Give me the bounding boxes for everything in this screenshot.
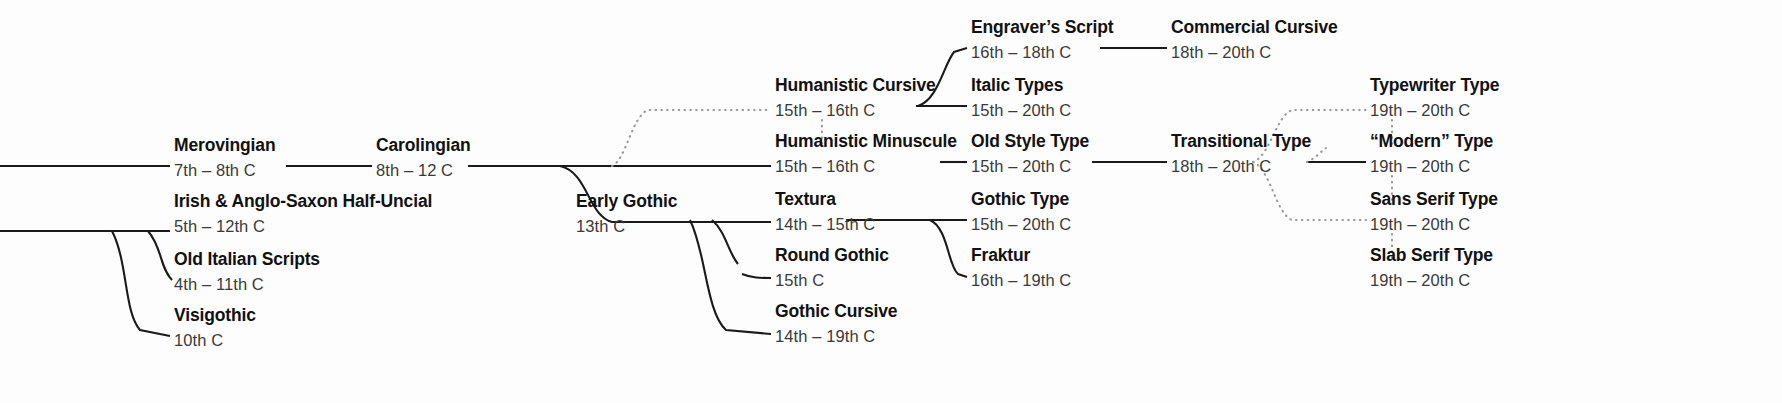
node-label: Humanistic Cursive — [775, 77, 936, 95]
node-date: 16th – 18th C — [971, 44, 1113, 61]
node-label: Typewriter Type — [1370, 77, 1499, 95]
node-label: Italic Types — [971, 77, 1071, 95]
node-label: Humanistic Minuscule — [775, 133, 957, 151]
node-label: Visigothic — [174, 307, 256, 325]
node-italic-types[interactable]: Italic Types 15th – 20th C — [971, 77, 1071, 118]
node-date: 14th – 19th C — [775, 328, 897, 345]
node-textura[interactable]: Textura 14th – 15th C — [775, 191, 875, 232]
edge-earlygothic-roundgothic — [712, 220, 738, 264]
node-gothic-type[interactable]: Gothic Type 15th – 20th C — [971, 191, 1071, 232]
edge-root-visigothic — [112, 231, 170, 336]
node-date: 10th C — [174, 332, 256, 349]
node-humanistic-cursive[interactable]: Humanistic Cursive 15th – 16th C — [775, 77, 936, 118]
node-label: Round Gothic — [775, 247, 889, 265]
node-label: Irish & Anglo-Saxon Half-Uncial — [174, 193, 432, 211]
node-modern-type[interactable]: “Modern” Type 19th – 20th C — [1370, 133, 1493, 174]
node-label: Gothic Cursive — [775, 303, 897, 321]
node-label: Gothic Type — [971, 191, 1071, 209]
script-family-tree-diagram: Merovingian 7th – 8th C Carolingian 8th … — [0, 0, 1782, 403]
node-date: 19th – 20th C — [1370, 216, 1498, 233]
node-label: Sans Serif Type — [1370, 191, 1498, 209]
node-humanistic-minuscule[interactable]: Humanistic Minuscule 15th – 16th C — [775, 133, 957, 174]
node-date: 15th – 16th C — [775, 158, 957, 175]
node-round-gothic[interactable]: Round Gothic 15th C — [775, 247, 889, 288]
node-old-italian-scripts[interactable]: Old Italian Scripts 4th – 11th C — [174, 251, 320, 292]
node-fraktur[interactable]: Fraktur 16th – 19th C — [971, 247, 1071, 288]
node-label: Old Style Type — [971, 133, 1089, 151]
node-label: Merovingian — [174, 137, 275, 155]
node-date: 18th – 20th C — [1171, 158, 1311, 175]
node-transitional-type[interactable]: Transitional Type 18th – 20th C — [1171, 133, 1311, 174]
node-label: Transitional Type — [1171, 133, 1311, 151]
node-date: 8th – 12 C — [376, 162, 471, 179]
node-date: 16th – 19th C — [971, 272, 1071, 289]
edge-root-olditalian — [148, 231, 172, 280]
node-date: 19th – 20th C — [1370, 102, 1499, 119]
node-sans-serif-type[interactable]: Sans Serif Type 19th – 20th C — [1370, 191, 1498, 232]
node-merovingian[interactable]: Merovingian 7th – 8th C — [174, 137, 275, 178]
node-engravers-script[interactable]: Engraver’s Script 16th – 18th C — [971, 19, 1113, 60]
node-label: Carolingian — [376, 137, 471, 155]
node-date: 15th C — [775, 272, 889, 289]
node-early-gothic[interactable]: Early Gothic 13th C — [576, 193, 677, 234]
node-irish-anglo-saxon-half-uncial[interactable]: Irish & Anglo-Saxon Half-Uncial 5th – 12… — [174, 193, 432, 234]
node-date: 14th – 15th C — [775, 216, 875, 233]
node-label: Commercial Cursive — [1171, 19, 1338, 37]
node-slab-serif-type[interactable]: Slab Serif Type 19th – 20th C — [1370, 247, 1493, 288]
node-label: Old Italian Scripts — [174, 251, 320, 269]
node-date: 15th – 20th C — [971, 158, 1089, 175]
node-typewriter-type[interactable]: Typewriter Type 19th – 20th C — [1370, 77, 1499, 118]
node-label: Engraver’s Script — [971, 19, 1113, 37]
node-date: 19th – 20th C — [1370, 158, 1493, 175]
node-commercial-cursive[interactable]: Commercial Cursive 18th – 20th C — [1171, 19, 1338, 60]
edge-earlygothic-gothiccursive — [690, 220, 771, 334]
edge-earlygothic-roundgothic-2 — [742, 274, 771, 278]
node-date: 19th – 20th C — [1370, 272, 1493, 289]
node-date: 15th – 20th C — [971, 216, 1071, 233]
node-label: Early Gothic — [576, 193, 677, 211]
node-date: 4th – 11th C — [174, 276, 320, 293]
edge-carolingian-humcursive-dotted — [612, 110, 771, 166]
node-label: Textura — [775, 191, 875, 209]
node-carolingian[interactable]: Carolingian 8th – 12 C — [376, 137, 471, 178]
node-label: “Modern” Type — [1370, 133, 1493, 151]
node-visigothic[interactable]: Visigothic 10th C — [174, 307, 256, 348]
node-gothic-cursive[interactable]: Gothic Cursive 14th – 19th C — [775, 303, 897, 344]
node-date: 15th – 16th C — [775, 102, 936, 119]
edge-textura-fraktur — [930, 220, 967, 277]
node-label: Fraktur — [971, 247, 1071, 265]
node-date: 7th – 8th C — [174, 162, 275, 179]
node-date: 13th C — [576, 218, 677, 235]
node-date: 15th – 20th C — [971, 102, 1071, 119]
node-date: 5th – 12th C — [174, 218, 432, 235]
node-date: 18th – 20th C — [1171, 44, 1338, 61]
node-label: Slab Serif Type — [1370, 247, 1493, 265]
node-old-style-type[interactable]: Old Style Type 15th – 20th C — [971, 133, 1089, 174]
